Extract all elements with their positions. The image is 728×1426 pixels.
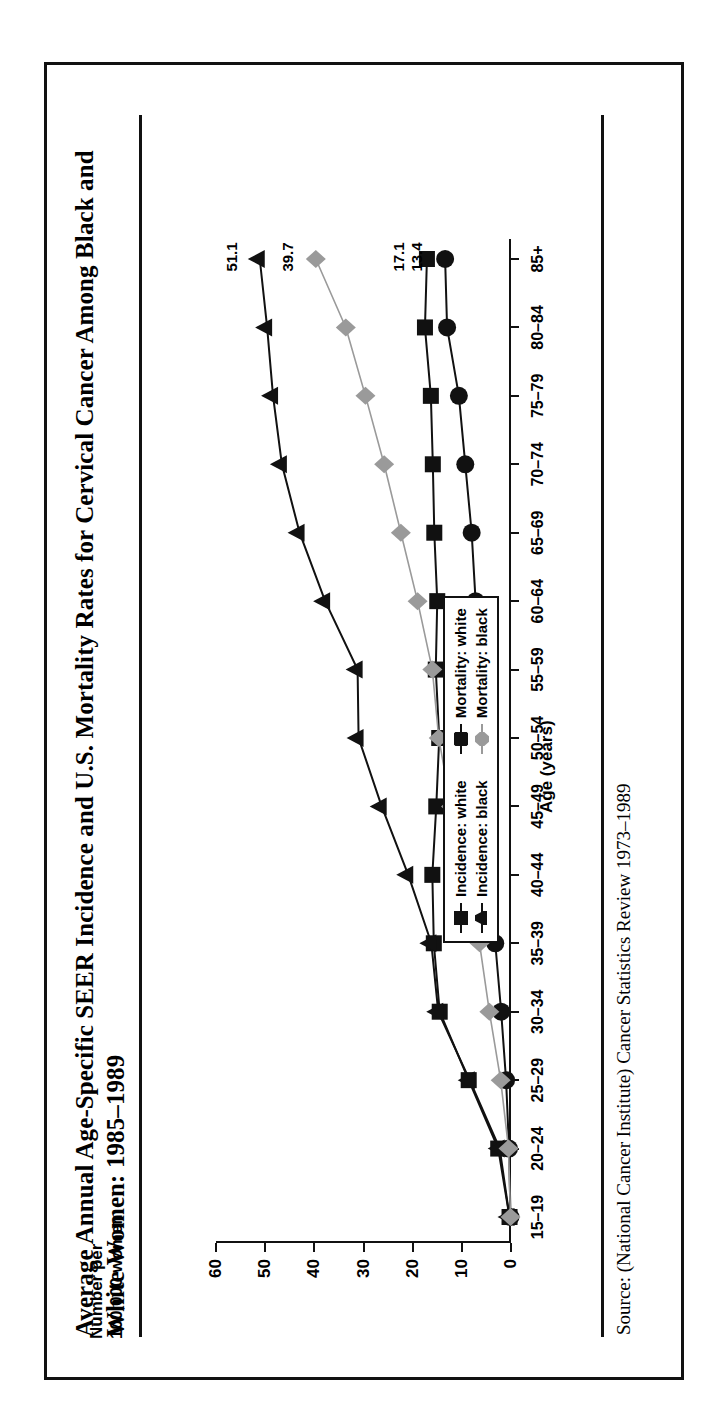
figure-page: Average Annual Age-Specific SEER Inciden… bbox=[0, 0, 728, 1426]
y-axis-tick-label: 20 bbox=[403, 1259, 423, 1311]
legend-marker-triangle-icon bbox=[475, 903, 489, 933]
legend-label: Incidence: black bbox=[473, 780, 490, 897]
source-note: Source: (National Cancer Institute) Canc… bbox=[613, 784, 635, 1335]
title-divider bbox=[139, 115, 142, 1337]
legend-item[interactable]: Mortality: white bbox=[452, 608, 469, 754]
chart-legend: Incidence: whiteMortality: whiteIncidenc… bbox=[443, 596, 499, 943]
chart-plot-area: Number per100,000 women 0102030405060 15… bbox=[157, 239, 577, 1243]
legend-item[interactable]: Incidence: black bbox=[473, 780, 490, 933]
y-axis-tick bbox=[215, 1243, 217, 1252]
y-axis-tick-label: 0 bbox=[501, 1259, 521, 1311]
legend-marker-diamond-icon bbox=[475, 724, 489, 754]
y-axis-tick bbox=[412, 1243, 414, 1252]
page-title: Average Annual Age-Specific SEER Inciden… bbox=[69, 107, 132, 1337]
source-divider bbox=[601, 115, 604, 1337]
y-axis-tick-label: 10 bbox=[452, 1259, 472, 1311]
legend-item[interactable]: Incidence: white bbox=[452, 780, 469, 933]
y-axis-tick-label: 50 bbox=[255, 1259, 275, 1311]
y-axis-tick bbox=[461, 1243, 463, 1252]
y-axis-tick bbox=[363, 1243, 365, 1252]
legend-label: Mortality: black bbox=[473, 608, 490, 718]
legend-marker-circle-icon bbox=[454, 724, 468, 754]
y-axis-title-line2: 100,000 women bbox=[107, 1214, 126, 1339]
legend-label: Mortality: white bbox=[452, 608, 469, 718]
series-lines bbox=[157, 239, 577, 1243]
figure-frame: Average Annual Age-Specific SEER Inciden… bbox=[44, 62, 684, 1380]
y-axis-tick bbox=[264, 1243, 266, 1252]
legend-label: Incidence: white bbox=[452, 780, 469, 897]
y-axis-title: Number per100,000 women bbox=[87, 1214, 126, 1339]
rotated-figure-canvas: Average Annual Age-Specific SEER Inciden… bbox=[61, 79, 667, 1363]
series-end-label: 39.7 bbox=[279, 242, 296, 271]
series-end-label: 13.4 bbox=[408, 242, 425, 271]
y-axis-tick-label: 40 bbox=[304, 1259, 324, 1311]
x-axis-title: Age (years) bbox=[537, 720, 557, 813]
y-axis-tick bbox=[313, 1243, 315, 1252]
y-axis-title-line1: Number per bbox=[87, 1244, 106, 1339]
legend-item[interactable]: Mortality: black bbox=[473, 608, 490, 754]
series-end-label: 51.1 bbox=[223, 242, 240, 271]
y-axis-tick-label: 60 bbox=[206, 1259, 226, 1311]
y-axis-tick-label: 30 bbox=[354, 1259, 374, 1311]
legend-marker-square-icon bbox=[454, 903, 468, 933]
y-axis-tick bbox=[510, 1243, 512, 1252]
series-end-label: 17.1 bbox=[390, 242, 407, 271]
